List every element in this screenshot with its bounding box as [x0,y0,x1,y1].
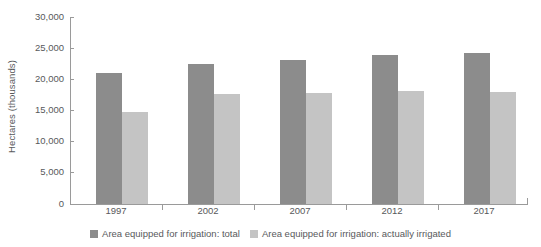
bar-2007-actually-irrigated [306,93,332,204]
y-axis-tick-label: 0 [59,198,64,209]
bar-group-1997 [70,17,162,204]
legend-label: Area equipped for irrigation: total [102,228,240,239]
y-axis-tick-label: 5,000 [40,166,64,177]
x-axis-label-1997: 1997 [70,205,162,216]
bar-1997-total [96,73,122,204]
bar-groups [70,10,528,205]
bar-2012-actually-irrigated [398,91,424,204]
y-axis-tick-label: 15,000 [35,104,64,115]
y-axis-tick-label: 30,000 [35,11,64,22]
x-axis-label-2007: 2007 [254,205,346,216]
x-axis-labels: 19972002200720122017 [70,205,528,221]
x-axis-label-2002: 2002 [162,205,254,216]
bar-2002-actually-irrigated [214,94,240,204]
bar-2012-total [372,55,398,204]
bar-2017-actually-irrigated [490,92,516,204]
bar-1997-actually-irrigated [122,112,148,204]
bar-group-2017 [438,17,530,204]
legend-swatch-icon [250,230,258,238]
legend-swatch-icon [90,230,98,238]
y-axis-tick-label: 10,000 [35,135,64,146]
x-axis-label-2012: 2012 [346,205,438,216]
y-axis-tick-label: 25,000 [35,42,64,53]
y-axis-title-label: Hectares (thousands) [6,60,17,153]
legend-item-actually-irrigated[interactable]: Area equipped for irrigation: actually i… [250,228,451,239]
bar-2017-total [464,53,490,204]
y-axis-tick-label: 20,000 [35,73,64,84]
plot-area: 05,00010,00015,00020,00025,00030,000 [70,10,528,209]
bar-chart: Hectares (thousands) 05,00010,00015,0002… [0,0,541,247]
bar-group-2007 [254,17,346,204]
bar-2002-total [188,64,214,204]
bar-group-2002 [162,17,254,204]
legend-label: Area equipped for irrigation: actually i… [262,228,451,239]
bar-group-2012 [346,17,438,204]
legend-item-total[interactable]: Area equipped for irrigation: total [90,228,240,239]
y-axis-title: Hectares (thousands) [0,0,22,212]
bar-2007-total [280,60,306,204]
x-axis-label-2017: 2017 [438,205,530,216]
chart-legend: Area equipped for irrigation: totalArea … [0,228,541,239]
